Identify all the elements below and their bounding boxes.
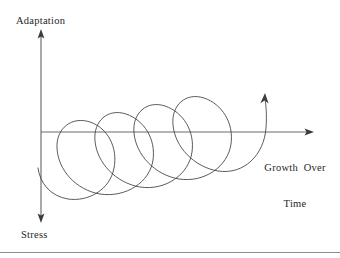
figure-root: Adaptation Stress Growth Over Time: [0, 0, 340, 258]
x-axis-label-line-1: Growth Over: [259, 162, 331, 174]
y-axis-top-label: Adaptation: [16, 15, 65, 27]
x-axis-label-line-2: Time: [259, 198, 331, 210]
vertical-axis: [38, 29, 45, 223]
x-axis-label: Growth Over Time: [259, 138, 331, 234]
spiral-end-arrowhead: [260, 93, 268, 104]
horizontal-axis: [41, 129, 314, 136]
ascending-spiral: [38, 93, 269, 199]
spiral-curve: [38, 97, 266, 200]
y-axis-bottom-label: Stress: [21, 229, 48, 241]
